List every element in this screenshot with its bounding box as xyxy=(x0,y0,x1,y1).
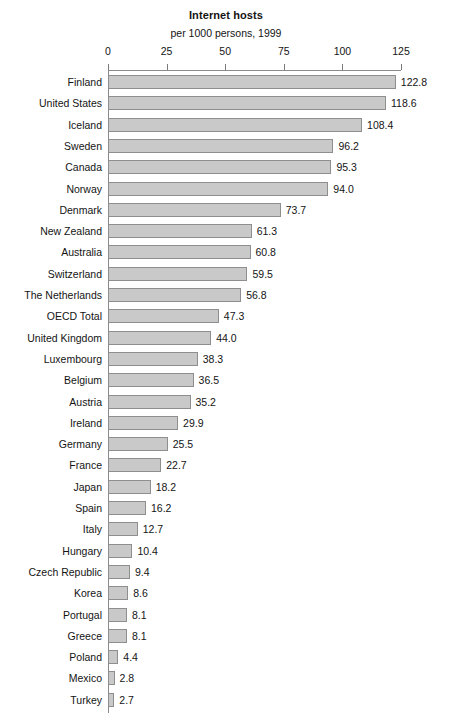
category-label: Italy xyxy=(0,522,102,536)
bar-container xyxy=(108,501,146,515)
bar-row[interactable]: Poland4.4 xyxy=(0,647,452,668)
bar-container xyxy=(108,522,138,536)
bar-row[interactable]: Luxembourg38.3 xyxy=(0,349,452,370)
bar[interactable] xyxy=(108,671,115,685)
bar-container xyxy=(108,224,252,238)
bar[interactable] xyxy=(108,96,386,110)
bar-row[interactable]: Italy12.7 xyxy=(0,519,452,540)
bar-row[interactable]: France22.7 xyxy=(0,455,452,476)
value-label: 10.4 xyxy=(137,544,157,558)
bar-row[interactable]: OECD Total47.3 xyxy=(0,306,452,327)
bar-row[interactable]: Ireland29.9 xyxy=(0,413,452,434)
bar-row[interactable]: Czech Republic9.4 xyxy=(0,562,452,583)
category-label: United States xyxy=(0,96,102,110)
bar[interactable] xyxy=(108,437,168,451)
bar[interactable] xyxy=(108,160,331,174)
category-label: Denmark xyxy=(0,203,102,217)
bar-container xyxy=(108,416,178,430)
bar-container xyxy=(108,245,251,259)
bar[interactable] xyxy=(108,203,281,217)
value-label: 44.0 xyxy=(216,331,236,345)
bar[interactable] xyxy=(108,544,132,558)
bar-container xyxy=(108,267,247,281)
bar-row[interactable]: Portugal8.1 xyxy=(0,605,452,626)
bar[interactable] xyxy=(108,458,161,472)
value-label: 61.3 xyxy=(257,224,277,238)
category-label: Korea xyxy=(0,586,102,600)
bar[interactable] xyxy=(108,629,127,643)
bar[interactable] xyxy=(108,395,191,409)
value-label: 38.3 xyxy=(203,352,223,366)
bar[interactable] xyxy=(108,352,198,366)
bar-container xyxy=(108,96,386,110)
value-label: 59.5 xyxy=(252,267,272,281)
bar[interactable] xyxy=(108,75,396,89)
bar[interactable] xyxy=(108,565,130,579)
bar-row[interactable]: Japan18.2 xyxy=(0,477,452,498)
category-label: Spain xyxy=(0,501,102,515)
bar-container xyxy=(108,182,328,196)
bar[interactable] xyxy=(108,373,194,387)
bar[interactable] xyxy=(108,331,211,345)
bar[interactable] xyxy=(108,416,178,430)
bar[interactable] xyxy=(108,501,146,515)
bar[interactable] xyxy=(108,245,251,259)
category-label: Germany xyxy=(0,437,102,451)
bar-container xyxy=(108,693,114,707)
bar-container xyxy=(108,331,211,345)
bar-container xyxy=(108,395,191,409)
bar-row[interactable]: United States118.6 xyxy=(0,93,452,114)
value-label: 95.3 xyxy=(336,160,356,174)
bar[interactable] xyxy=(108,608,127,622)
bar[interactable] xyxy=(108,224,252,238)
bar-row[interactable]: The Netherlands56.8 xyxy=(0,285,452,306)
bar[interactable] xyxy=(108,288,241,302)
bar-row[interactable]: Iceland108.4 xyxy=(0,115,452,136)
bar[interactable] xyxy=(108,522,138,536)
bar-row[interactable]: Sweden96.2 xyxy=(0,136,452,157)
bar-row[interactable]: Greece8.1 xyxy=(0,626,452,647)
bar-row[interactable]: Austria35.2 xyxy=(0,392,452,413)
bar[interactable] xyxy=(108,480,151,494)
bar[interactable] xyxy=(108,693,114,707)
bar-container xyxy=(108,650,118,664)
value-label: 35.2 xyxy=(196,395,216,409)
value-label: 36.5 xyxy=(199,373,219,387)
bar-row[interactable]: New Zealand61.3 xyxy=(0,221,452,242)
value-label: 16.2 xyxy=(151,501,171,515)
bar[interactable] xyxy=(108,650,118,664)
bar[interactable] xyxy=(108,309,219,323)
bar-row[interactable]: Korea8.6 xyxy=(0,583,452,604)
bar-row[interactable]: Hungary10.4 xyxy=(0,541,452,562)
value-label: 22.7 xyxy=(166,458,186,472)
bar[interactable] xyxy=(108,118,362,132)
bar[interactable] xyxy=(108,267,247,281)
bar-row[interactable]: Finland122.8 xyxy=(0,72,452,93)
bar-container xyxy=(108,139,333,153)
bar-row[interactable]: Norway94.0 xyxy=(0,179,452,200)
bar-container xyxy=(108,118,362,132)
bar-row[interactable]: Germany25.5 xyxy=(0,434,452,455)
value-label: 8.1 xyxy=(132,629,147,643)
category-label: United Kingdom xyxy=(0,331,102,345)
category-label: New Zealand xyxy=(0,224,102,238)
bar-row[interactable]: Belgium36.5 xyxy=(0,370,452,391)
bar-row[interactable]: Spain16.2 xyxy=(0,498,452,519)
category-label: Norway xyxy=(0,182,102,196)
bar-row[interactable]: Australia60.8 xyxy=(0,242,452,263)
bar-row[interactable]: Mexico2.8 xyxy=(0,668,452,689)
bar-row[interactable]: Switzerland59.5 xyxy=(0,264,452,285)
value-label: 47.3 xyxy=(224,309,244,323)
bar-row[interactable]: United Kingdom44.0 xyxy=(0,328,452,349)
value-label: 118.6 xyxy=(391,96,417,110)
bar-row[interactable]: Turkey2.7 xyxy=(0,690,452,711)
bar[interactable] xyxy=(108,586,128,600)
bar[interactable] xyxy=(108,139,333,153)
value-label: 60.8 xyxy=(256,245,276,259)
value-label: 73.7 xyxy=(286,203,306,217)
bar-row[interactable]: Denmark73.7 xyxy=(0,200,452,221)
bar[interactable] xyxy=(108,182,328,196)
value-label: 9.4 xyxy=(135,565,150,579)
bar-row[interactable]: Canada95.3 xyxy=(0,157,452,178)
